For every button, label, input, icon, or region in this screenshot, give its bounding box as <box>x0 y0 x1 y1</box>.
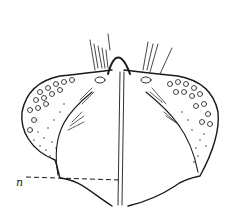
median-line <box>118 72 120 205</box>
outline-left <box>22 70 112 206</box>
label-n: n <box>16 176 23 189</box>
apical-knob <box>108 58 130 75</box>
leader-line-n <box>26 177 120 180</box>
illustration <box>0 0 236 216</box>
inner-lobe-right <box>146 92 198 172</box>
inner-lobe-left <box>56 92 92 175</box>
outline-right <box>124 70 218 206</box>
bristles-right <box>143 42 172 74</box>
bristles-left <box>90 34 110 70</box>
